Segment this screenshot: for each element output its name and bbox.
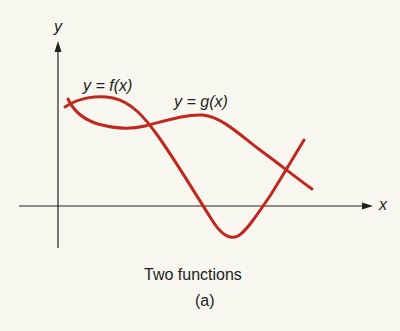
curve-f xyxy=(65,97,304,238)
figure-caption: Two functions xyxy=(144,267,242,283)
curve-f-label: y = f(x) xyxy=(83,78,132,94)
y-axis-arrow-icon xyxy=(55,41,62,52)
curve-g xyxy=(68,99,312,189)
curve-g-label: y = g(x) xyxy=(174,94,228,110)
y-axis-label: y xyxy=(54,19,62,35)
figure-subcaption: (a) xyxy=(195,293,215,309)
x-axis-label: x xyxy=(379,197,387,213)
x-axis-arrow-icon xyxy=(362,203,373,210)
